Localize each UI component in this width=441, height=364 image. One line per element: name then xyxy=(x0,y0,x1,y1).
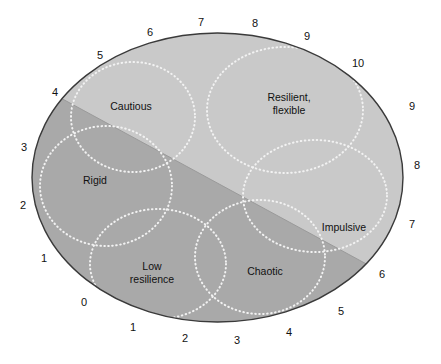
axis-tick-left-18: 2 xyxy=(20,200,26,211)
region-label-low-resilience: Lowresilience xyxy=(130,260,174,285)
region-label-impulsive: Impulsive xyxy=(322,221,366,234)
region-label-resilient: Resilient,flexible xyxy=(267,91,310,116)
axis-tick-right-9: 7 xyxy=(409,219,415,230)
axis-tick-right-11: 5 xyxy=(338,306,344,317)
axis-tick-upper-left-5: 9 xyxy=(304,31,310,42)
venn-ellipse-figure: CautiousResilient,flexibleRigidImpulsive… xyxy=(0,0,441,364)
axis-tick-right-14: 2 xyxy=(182,333,188,344)
axis-tick-right-15: 1 xyxy=(130,322,136,333)
region-label-cautious: Cautious xyxy=(110,100,151,113)
region-label-chaotic: Chaotic xyxy=(247,265,283,278)
region-label-rigid: Rigid xyxy=(83,174,107,187)
axis-tick-upper-left-3: 7 xyxy=(198,17,204,28)
axis-tick-upper-left-2: 6 xyxy=(147,27,153,38)
axis-tick-right-12: 4 xyxy=(286,327,292,338)
axis-tick-right-16: 0 xyxy=(81,297,87,308)
axis-tick-upper-left-1: 5 xyxy=(97,50,103,61)
axis-tick-left-19: 3 xyxy=(21,142,27,153)
axis-tick-left-17: 1 xyxy=(41,253,47,264)
axis-tick-right-13: 3 xyxy=(234,335,240,346)
axis-tick-right-8: 8 xyxy=(414,160,420,171)
axis-tick-right-7: 9 xyxy=(409,101,415,112)
axis-tick-upper-left-6: 10 xyxy=(352,58,364,69)
diagram-svg xyxy=(0,0,441,364)
axis-tick-upper-left-4: 8 xyxy=(252,18,258,29)
axis-tick-right-10: 6 xyxy=(379,269,385,280)
axis-tick-upper-left-0: 4 xyxy=(52,87,58,98)
